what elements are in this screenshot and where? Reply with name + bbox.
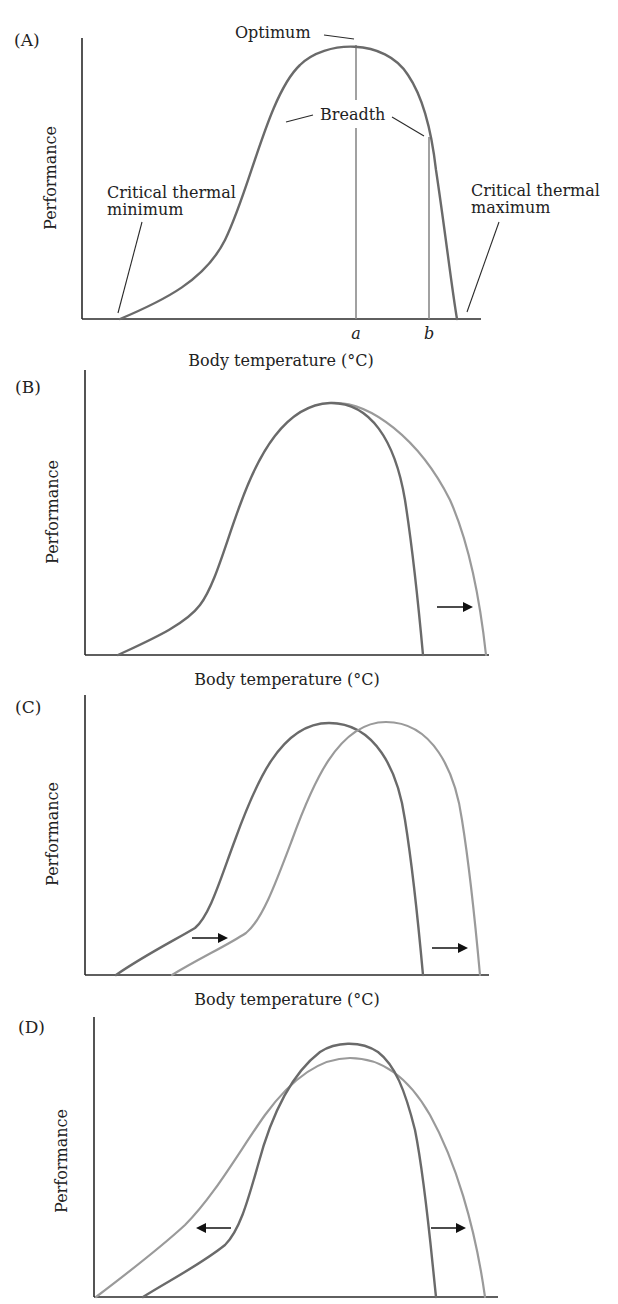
ctmin-leader <box>118 222 142 313</box>
original-curve <box>118 403 423 655</box>
panel-a-label: (A) <box>14 30 40 50</box>
x-axis-label: Body temperature (°C) <box>188 351 373 370</box>
optimum-label: Optimum <box>235 23 311 42</box>
tick-b: b <box>424 324 434 343</box>
x-axis-label: Body temperature (°C) <box>194 990 379 1009</box>
y-axis-label: Performance <box>43 460 62 564</box>
panel-b: (B) Performance Body temperature (°C) <box>15 370 489 689</box>
x-axis-label: Body temperature (°C) <box>194 670 379 689</box>
original-curve <box>116 723 423 975</box>
optimum-leader <box>324 35 354 39</box>
ctmax-leader <box>467 222 499 312</box>
panel-b-label: (B) <box>15 377 41 397</box>
y-axis-label: Performance <box>52 1109 71 1213</box>
breadth-label: Breadth <box>320 105 385 124</box>
right-arrow-icon <box>458 943 468 953</box>
right-arrow-icon <box>218 933 228 943</box>
right-arrow-icon <box>463 602 473 612</box>
ctmax-label-line2: maximum <box>471 198 551 217</box>
panel-a: (A) Performance Body temperature (°C) Op… <box>14 23 600 370</box>
original-curve <box>143 1044 436 1297</box>
panel-d-label: (D) <box>18 1017 45 1037</box>
breadth-leader-left <box>286 115 313 122</box>
broadened-curve <box>96 1058 485 1297</box>
panel-c-label: (C) <box>15 697 41 717</box>
y-axis-label: Performance <box>43 782 62 886</box>
tick-a: a <box>351 324 361 343</box>
left-arrow-icon <box>196 1223 206 1233</box>
right-arrow-icon <box>456 1223 466 1233</box>
panel-c: (C) Performance Body temperature (°C) <box>15 695 489 1009</box>
y-axis-label: Performance <box>41 126 60 230</box>
breadth-leader-right <box>392 117 424 136</box>
panel-d: (D) Performance <box>18 1017 498 1297</box>
thermal-performance-figure: (A) Performance Body temperature (°C) Op… <box>0 0 618 1304</box>
ctmin-label-line2: minimum <box>107 200 183 219</box>
